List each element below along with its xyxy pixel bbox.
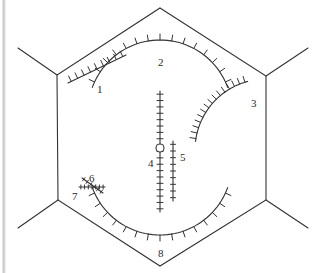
label-5: 5 — [180, 152, 186, 163]
symbol-3-tick — [237, 79, 239, 85]
symbol-8-tick — [204, 220, 208, 225]
label-2: 2 — [158, 57, 164, 68]
hexagon-spur-3 — [266, 200, 308, 228]
symbol-2-tick — [123, 43, 126, 48]
symbol-8-tick — [194, 227, 197, 232]
symbol-3-tick — [191, 132, 197, 133]
symbol-2-tick — [194, 43, 197, 48]
symbol-2-tick — [212, 58, 216, 62]
hexagon-spur-4 — [18, 200, 58, 228]
symbol-2-tick — [113, 50, 117, 55]
label-4: 4 — [148, 158, 154, 169]
symbol-8-tick — [123, 227, 126, 232]
symbol-3-tick — [212, 95, 216, 99]
hexagon-outline — [57, 8, 266, 266]
symbol-8-tick — [135, 231, 137, 237]
symbol-8-tick — [225, 193, 230, 196]
symbol-1-tick — [101, 60, 104, 65]
symbol-3-tick — [204, 104, 209, 108]
label-6: 6 — [89, 173, 95, 184]
symbol-8-tick — [95, 203, 100, 206]
symbol-2-tick — [204, 50, 208, 55]
symbol-8-tick — [103, 212, 107, 216]
symbol-3-tick — [193, 126, 199, 128]
symbol-8-tick — [113, 220, 117, 225]
symbol-2-tick — [220, 68, 225, 71]
symbol-2-tick — [225, 79, 230, 82]
symbol-8-tick — [147, 234, 148, 240]
symbol-3-tick — [221, 87, 224, 92]
symbol-3-tick — [195, 120, 201, 122]
structural-diagram — [0, 0, 320, 273]
symbol-4-circle-marker — [156, 144, 164, 152]
label-3: 3 — [251, 98, 257, 109]
symbol-8-tick — [89, 193, 94, 196]
symbol-1-tick — [75, 73, 78, 78]
label-7: 7 — [72, 191, 78, 202]
symbol-1-tick — [69, 76, 72, 81]
label-1: 1 — [97, 84, 103, 95]
symbol-2-tick — [103, 58, 107, 62]
symbol-8-tick — [220, 203, 225, 206]
symbol-2-tick — [172, 35, 173, 41]
symbol-8-tick — [172, 234, 173, 240]
symbol-2-tick — [183, 38, 185, 44]
symbol-1-tick — [82, 70, 85, 75]
symbol-3 — [190, 76, 248, 141]
symbol-3-tick — [232, 81, 235, 86]
symbol-3-tick — [190, 138, 196, 139]
symbol-3-tick — [217, 91, 221, 96]
symbol-3-tick — [198, 115, 203, 118]
symbol-7 — [79, 185, 105, 189]
symbol-3-tick — [201, 109, 206, 112]
symbol-8-tick — [183, 231, 185, 237]
hexagon-spur-2 — [266, 48, 308, 76]
hexagon-spur-1 — [18, 48, 57, 75]
symbol-2-tick — [89, 79, 94, 82]
symbol-3-tick — [208, 99, 213, 103]
symbol-2-tick — [147, 35, 148, 41]
symbol-5 — [171, 141, 176, 201]
symbol-8-tick — [212, 212, 216, 216]
symbol-4 — [156, 91, 164, 212]
symbol-2-tick — [135, 38, 137, 44]
symbol-3-tick — [243, 76, 245, 82]
symbol-1-tick — [88, 67, 91, 72]
figure-canvas: 12345678 — [0, 0, 320, 273]
hexagon-path — [57, 8, 266, 266]
label-8: 8 — [158, 248, 164, 259]
